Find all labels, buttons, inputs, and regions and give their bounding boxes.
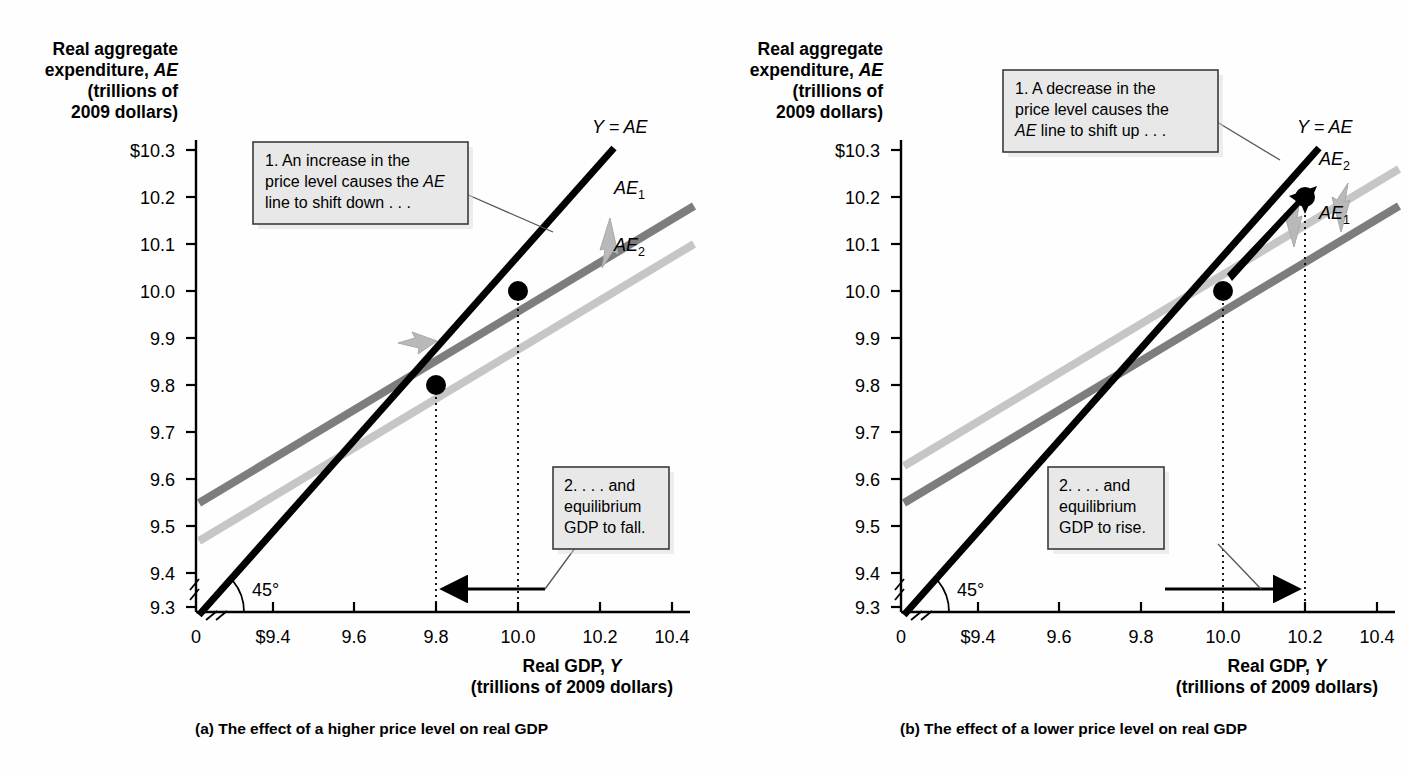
line-label-ae1: AE1 [613, 178, 645, 202]
equilibrium-dot-new [426, 375, 446, 395]
angle-arc [233, 581, 244, 612]
panel-b-plot: Real aggregate expenditure, AE (trillion… [705, 0, 1409, 773]
x-tick-10-4: 10.4 [654, 627, 689, 647]
y-tick-10-3: $10.3 [130, 141, 175, 161]
callout-1-line-2: price level causes the [1015, 101, 1169, 118]
line-label-ae2: AE2 [1318, 149, 1350, 173]
y-tick-10-0: 10.0 [845, 282, 880, 302]
callout-1-line-2: price level causes the AE [265, 173, 445, 190]
y-axis-title-line-2: expenditure, AE [750, 60, 885, 80]
y-tick-9-9: 9.9 [150, 329, 175, 349]
angle-arc [938, 581, 949, 612]
x-tick-9-8: 9.8 [423, 627, 448, 647]
y-tick-9-4: 9.4 [150, 564, 175, 584]
x-tick-10-4: 10.4 [1359, 627, 1394, 647]
x-axis-title-line-2: (trillions of 2009 dollars) [1176, 677, 1378, 697]
y-axis-tick-labels: $10.3 10.2 10.1 10.0 9.9 9.8 9.7 9.6 9.5… [835, 141, 880, 618]
callout-1-line-3: AE line to shift up . . . [1014, 122, 1166, 139]
y-axis-title-line-1: Real aggregate [53, 39, 179, 59]
callout-1-line-1: 1. An increase in the [265, 152, 410, 169]
x-origin-label: 0 [191, 627, 201, 647]
panel-a-plot: Real aggregate expenditure, AE (trillion… [0, 0, 704, 773]
y-axis-title-line-3: (trillions of [88, 81, 179, 101]
panel-b: Real aggregate expenditure, AE (trillion… [705, 0, 1409, 773]
y-tick-9-8: 9.8 [150, 376, 175, 396]
y-tick-9-6: 9.6 [855, 470, 880, 490]
x-axis-ticks [273, 602, 672, 612]
y-tick-9-4: 9.4 [855, 564, 880, 584]
callout-1-line-3: line to shift down . . . [265, 194, 411, 211]
y-tick-9-6: 9.6 [150, 470, 175, 490]
y-tick-9-5: 9.5 [150, 517, 175, 537]
y-tick-9-9: 9.9 [855, 329, 880, 349]
equilibrium-dot-initial [1213, 281, 1233, 301]
y-tick-10-1: 10.1 [140, 235, 175, 255]
y-axis-title-line-4: 2009 dollars) [71, 102, 178, 122]
y-tick-10-3: $10.3 [835, 141, 880, 161]
x-tick-10-0: 10.0 [1205, 627, 1240, 647]
y-tick-10-2: 10.2 [140, 188, 175, 208]
x-tick-9-8: 9.8 [1128, 627, 1153, 647]
y-tick-9-7: 9.7 [855, 423, 880, 443]
y-axis-ticks [186, 150, 196, 607]
y-tick-9-8: 9.8 [855, 376, 880, 396]
y-tick-10-0: 10.0 [140, 282, 175, 302]
x-tick-9-6: 9.6 [341, 627, 366, 647]
angle-label: 45° [252, 580, 279, 600]
callout-2-line-2: equilibrium [1059, 498, 1136, 515]
y-tick-9-5: 9.5 [855, 517, 880, 537]
y-axis-title-line-3: (trillions of [793, 81, 884, 101]
panel-a: Real aggregate expenditure, AE (trillion… [0, 0, 704, 773]
callout-1-leader [466, 194, 553, 232]
angle-label: 45° [957, 580, 984, 600]
line-label-identity: Y = AE [592, 117, 649, 137]
y-tick-9-7: 9.7 [150, 423, 175, 443]
x-origin-label: 0 [896, 627, 906, 647]
callout-1-line-1: 1. A decrease in the [1015, 80, 1156, 97]
x-tick-9-4: $9.4 [255, 627, 290, 647]
x-axis-title-line-1: Real GDP, Y [1228, 656, 1328, 676]
x-tick-9-6: 9.6 [1046, 627, 1071, 647]
callout-2-line-3: GDP to rise. [1059, 519, 1146, 536]
callout-2-line-1: 2. . . . and [564, 477, 635, 494]
equilibrium-dot-initial [508, 281, 528, 301]
callout-2-line-2: equilibrium [564, 498, 641, 515]
x-tick-10-0: 10.0 [500, 627, 535, 647]
y-tick-10-1: 10.1 [845, 235, 880, 255]
callout-2-leader [1218, 544, 1261, 589]
panel-a-caption: (a) The effect of a higher price level o… [195, 720, 548, 737]
figure-container: Real aggregate expenditure, AE (trillion… [0, 0, 1409, 773]
x-axis-tick-labels: 0 $9.4 9.6 9.8 10.0 10.2 10.4 [896, 627, 1395, 647]
y-axis-title-line-1: Real aggregate [758, 39, 884, 59]
panel-b-caption: (b) The effect of a lower price level on… [900, 720, 1247, 737]
y-axis-title-line-4: 2009 dollars) [776, 102, 883, 122]
x-axis-title-line-2: (trillions of 2009 dollars) [471, 677, 673, 697]
callout-1-leader [1217, 122, 1280, 160]
x-axis-tick-labels: 0 $9.4 9.6 9.8 10.0 10.2 10.4 [191, 627, 690, 647]
x-axis-title-line-1: Real GDP, Y [523, 656, 623, 676]
y-axis-ticks [891, 150, 901, 607]
ae1-line [904, 206, 1399, 503]
x-tick-9-4: $9.4 [960, 627, 995, 647]
y-axis-tick-labels: $10.3 10.2 10.1 10.0 9.9 9.8 9.7 9.6 9.5… [130, 141, 175, 618]
y-tick-10-2: 10.2 [845, 188, 880, 208]
x-axis-ticks [978, 602, 1377, 612]
x-tick-10-2: 10.2 [1287, 627, 1322, 647]
line-label-identity: Y = AE [1297, 117, 1354, 137]
y-axis-title-line-2: expenditure, AE [45, 60, 180, 80]
x-tick-10-2: 10.2 [582, 627, 617, 647]
y-tick-9-3: 9.3 [855, 598, 880, 618]
callout-2-line-1: 2. . . . and [1059, 477, 1130, 494]
y-tick-9-3: 9.3 [150, 598, 175, 618]
callout-2-line-3: GDP to fall. [564, 519, 646, 536]
